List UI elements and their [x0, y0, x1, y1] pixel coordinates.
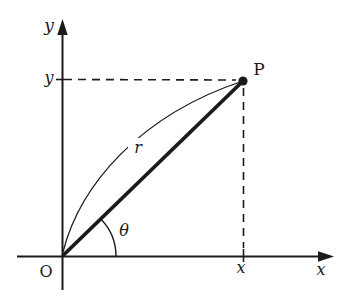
polar-coordinates-figure: y y P r θ O x x [0, 0, 352, 300]
polar-coordinates-diagram: y y P r θ O x x [0, 0, 352, 300]
radius-line [63, 81, 243, 256]
x-axis-label: x [316, 260, 325, 279]
radius-label: r [134, 138, 143, 157]
horizontal-dashed-projection [64, 80, 236, 81]
angle-theta-arc [101, 219, 116, 256]
angle-theta-label: θ [119, 221, 129, 240]
y-axis-label: y [43, 15, 54, 35]
x-coordinate-tick-label: x [236, 258, 245, 277]
origin-label: O [39, 262, 52, 281]
point-p-dot [238, 76, 247, 85]
point-p-label: P [253, 59, 264, 79]
y-axis-arrowhead-icon [57, 19, 67, 35]
y-coordinate-tick-label: y [43, 68, 54, 87]
